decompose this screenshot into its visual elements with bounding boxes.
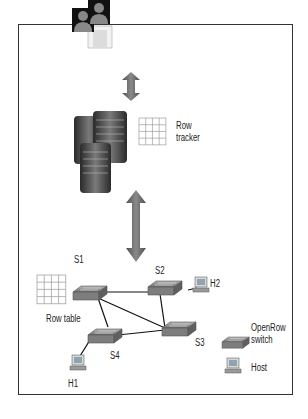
legend-host-label: Host [251,362,267,373]
host-h1-label: H1 [68,378,78,389]
legend-host-icon [225,358,241,373]
host-h2 [193,277,209,292]
diagram-canvas [0,0,308,419]
legend-switch-label-2: switch [251,334,273,345]
switch-s4 [88,329,122,343]
legend-switch-label: OpenRow [251,322,286,333]
double-arrow-large-icon [126,190,146,262]
switch-s4-label: S4 [110,350,120,361]
switch-s2-label: S2 [155,265,165,276]
legend-switch-icon [222,337,249,348]
switch-s1-label: S1 [74,254,84,265]
switch-s1 [73,286,107,300]
host-h2-label: H2 [210,278,220,289]
double-arrow-icon [122,72,140,101]
flow-tracker-label: Row [176,120,192,131]
switch-s3-label: S3 [195,337,205,348]
host-h1 [70,355,86,370]
users-icon [72,0,112,48]
server-stack-icon [74,111,127,193]
flow-table-grid-icon [37,275,66,304]
switch-s2 [148,281,182,295]
switch-s3 [162,322,196,336]
flow-table-label: Row table [46,313,81,324]
flow-tracker-label-2: tracker [176,132,200,143]
flow-tracker-grid-icon [139,118,166,145]
